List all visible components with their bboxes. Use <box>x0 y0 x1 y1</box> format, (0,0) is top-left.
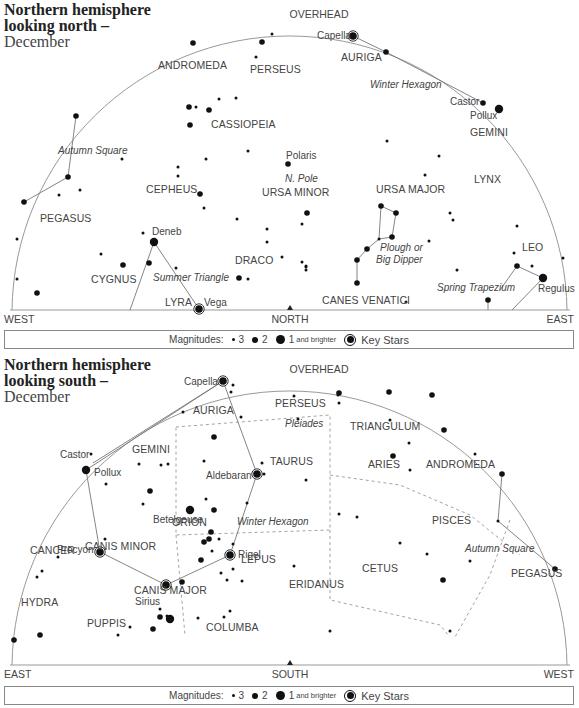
star-icon <box>90 453 93 456</box>
star-icon <box>378 238 381 241</box>
constellation-label: ARIES <box>368 458 400 470</box>
star-icon <box>301 223 304 226</box>
star-name-label: Castor <box>60 449 90 460</box>
star-icon <box>240 416 243 419</box>
star-name-label: Capella <box>317 30 351 41</box>
star-icon <box>531 265 534 268</box>
asterism-line <box>517 266 543 278</box>
star-icon <box>190 40 196 46</box>
star-icon <box>449 630 452 633</box>
star-icon <box>177 166 180 169</box>
key-star-icon <box>344 690 356 702</box>
star-icon <box>266 228 269 231</box>
star-icon <box>21 199 27 205</box>
constellation-label: CEPHEUS <box>146 183 197 195</box>
star-icon <box>175 267 178 270</box>
asterism-label: Plough or <box>380 242 423 253</box>
asterism-line <box>24 116 76 202</box>
star-icon <box>117 634 120 637</box>
key-stars-label: Key Stars <box>361 334 409 346</box>
star-icon <box>223 616 226 619</box>
star-icon <box>305 269 308 272</box>
constellation-label: GEMINI <box>470 126 508 138</box>
left-direction-label: EAST <box>4 668 32 680</box>
south-chart-panel: AURIGAPERSEUSTRIANGULUMGEMINITAURUSARIES… <box>0 355 579 708</box>
south-title-line2: looking south – <box>4 373 151 389</box>
star-icon <box>247 150 250 153</box>
key-star-icon <box>253 470 261 478</box>
star-icon <box>36 576 39 579</box>
star-icon <box>263 473 266 476</box>
constellation-label: GEMINI <box>132 443 170 455</box>
legend-label: Magnitudes: <box>169 690 223 701</box>
star-icon <box>142 232 145 235</box>
star-icon <box>82 466 90 474</box>
south-magnitude-legend: Magnitudes: 3 2 1and brighter Key Stars <box>4 686 574 705</box>
star-icon <box>354 257 360 263</box>
star-icon <box>197 617 200 620</box>
star-icon <box>440 577 446 583</box>
constellation-label: URSA MAJOR <box>376 183 446 195</box>
star-name-label: Castor <box>450 96 480 107</box>
star-icon <box>408 442 411 445</box>
star-icon <box>37 632 43 638</box>
star-icon <box>259 39 265 45</box>
star-icon <box>513 252 516 255</box>
star-icon <box>100 253 103 256</box>
star-icon <box>166 615 174 623</box>
star-icon <box>41 570 44 573</box>
star-icon <box>16 238 19 241</box>
right-direction-label: WEST <box>544 668 575 680</box>
legend-mag1: 1and brighter <box>276 690 337 701</box>
star-icon <box>424 174 427 177</box>
north-chart-panel: ANDROMEDAPERSEUSAURIGACASSIOPEIAGEMINICE… <box>0 0 579 355</box>
legend-mag2: 2 <box>252 690 268 701</box>
star-icon <box>386 389 392 395</box>
constellation-boundary <box>455 520 510 637</box>
mag2-label: 2 <box>262 690 268 701</box>
star-icon <box>399 542 402 545</box>
asterism-label: Spring Trapezium <box>437 282 515 293</box>
star-icon <box>150 238 158 246</box>
asterism-label: Summer Triangle <box>153 272 229 283</box>
star-icon <box>58 194 61 197</box>
legend-mag1: 1and brighter <box>276 334 337 345</box>
constellation-label: TRIANGULUM <box>350 420 420 432</box>
star-icon <box>255 56 258 59</box>
asterism-line <box>100 552 166 585</box>
legend-mag2: 2 <box>252 334 268 345</box>
star-name-label: Pollux <box>94 467 121 478</box>
mag1-dot-icon <box>276 691 285 700</box>
star-name-label: Regulus <box>538 283 575 294</box>
star-name-label: Betelgeuse <box>153 514 203 525</box>
star-icon <box>220 572 223 575</box>
constellation-label: ANDROMEDA <box>426 458 495 470</box>
star-icon <box>160 464 163 467</box>
asterism-line <box>230 474 257 555</box>
asterism-line <box>498 474 502 521</box>
asterism-label: Big Dipper <box>376 254 423 265</box>
legend-label: Magnitudes: <box>169 334 223 345</box>
star-icon <box>338 513 341 516</box>
star-icon <box>206 536 212 542</box>
star-icon <box>452 219 455 222</box>
key-star-icon <box>195 305 203 313</box>
star-icon <box>285 161 291 167</box>
star-icon <box>474 453 477 456</box>
constellation-label: CANIS MINOR <box>85 540 156 552</box>
asterism-label: Autumn Square <box>464 543 535 554</box>
star-icon <box>480 100 486 106</box>
mag1-dot-icon <box>276 335 285 344</box>
star-icon <box>261 462 264 465</box>
constellation-label: CASSIOPEIA <box>211 118 276 130</box>
star-icon <box>203 460 206 463</box>
star-icon <box>157 614 163 620</box>
overhead-label: OVERHEAD <box>290 363 349 375</box>
star-icon <box>389 234 395 240</box>
star-icon <box>16 278 19 281</box>
star-icon <box>211 434 217 440</box>
star-icon <box>211 507 217 513</box>
star-icon <box>187 122 193 128</box>
key-star-icon <box>219 377 227 385</box>
star-icon <box>218 538 221 541</box>
